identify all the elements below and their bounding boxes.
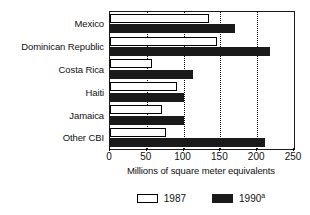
x-tick-label-150: 150 [211, 151, 228, 163]
bar-other-cbi-1987 [110, 128, 166, 137]
y-axis-label-dominican-republic: Dominican Republic [0, 42, 104, 52]
bar-costa-rica-1990 [110, 70, 193, 79]
legend-label-1990-text: 1990 [239, 193, 261, 204]
y-axis-category-labels: Mexico Dominican Republic Costa Rica Hai… [0, 11, 104, 148]
legend-label-1990-superscript: a [261, 191, 265, 198]
legend-item-1987: 1987 [137, 193, 186, 204]
y-axis-label-haiti: Haiti [0, 88, 104, 98]
bar-haiti-1990 [110, 93, 184, 102]
bar-jamaica-1990 [110, 116, 184, 125]
x-axis-tick-labels: 050100150200250 [109, 151, 293, 164]
bar-dominican-republic-1990 [110, 47, 270, 56]
legend-swatch-1990 [212, 194, 233, 203]
gridline-200 [257, 12, 258, 149]
bar-jamaica-1987 [110, 105, 162, 114]
plot-area [109, 11, 295, 150]
legend-item-1990: 1990a [212, 193, 265, 204]
y-axis-label-other-cbi: Other CBI [0, 133, 104, 143]
plot-inner [110, 12, 294, 149]
x-tick-label-50: 50 [140, 151, 151, 163]
bar-haiti-1987 [110, 82, 177, 91]
legend-label-1990: 1990a [239, 193, 265, 204]
chart-legend: 1987 1990a [109, 190, 293, 206]
y-axis-label-jamaica: Jamaica [0, 111, 104, 121]
y-axis-label-costa-rica: Costa Rica [0, 65, 104, 75]
legend-label-1987: 1987 [164, 193, 186, 204]
x-tick-label-100: 100 [174, 151, 191, 163]
bar-other-cbi-1990 [110, 138, 265, 147]
bar-chart-figure: Mexico Dominican Republic Costa Rica Hai… [0, 0, 310, 215]
legend-swatch-1987 [137, 194, 158, 203]
x-tick-label-0: 0 [106, 151, 112, 163]
bar-mexico-1987 [110, 14, 209, 23]
bar-mexico-1990 [110, 24, 235, 33]
bar-dominican-republic-1987 [110, 37, 217, 46]
x-tick-label-200: 200 [248, 151, 265, 163]
bar-costa-rica-1987 [110, 59, 152, 68]
x-axis-title: Millions of square meter equivalents [109, 165, 293, 177]
x-tick-label-250: 250 [285, 151, 302, 163]
y-axis-label-mexico: Mexico [0, 19, 104, 29]
